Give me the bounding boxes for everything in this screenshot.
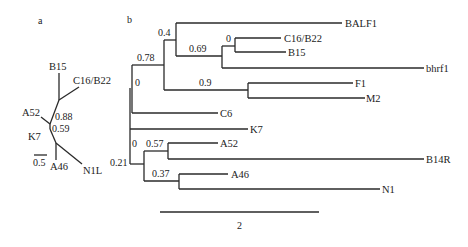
support-0-37: 0.37 xyxy=(152,168,170,179)
tip-label-k7: K7 xyxy=(28,131,41,142)
tip-label-n1: N1 xyxy=(382,184,395,195)
tip-label-a52: A52 xyxy=(22,107,40,118)
support-0-88: 0.88 xyxy=(55,111,73,122)
panel-b-label: b xyxy=(127,14,132,25)
support-0-9: 0.9 xyxy=(199,77,212,88)
tip-label-c16b22: C16/B22 xyxy=(284,33,322,44)
scale-bar-b-label: 2 xyxy=(237,220,242,231)
tip-label-k7: K7 xyxy=(250,124,263,135)
tip-label-c16b22: C16/B22 xyxy=(73,75,111,86)
panel-b: b xyxy=(110,14,451,231)
tip-label-c6: C6 xyxy=(220,108,232,119)
branch-c16b22 xyxy=(59,87,79,100)
tip-label-a52: A52 xyxy=(220,138,238,149)
figure-canvas: a B15 C16/B22 A52 K7 A46 N1L 0.88 0.59 0… xyxy=(0,0,468,247)
support-0-57: 0.57 xyxy=(146,138,164,149)
panel-a-label: a xyxy=(38,15,43,26)
scale-bar-a-label: 0.5 xyxy=(33,157,46,168)
support-0-4: 0.4 xyxy=(158,27,171,38)
support-0-69: 0.69 xyxy=(189,43,207,54)
tip-label-n1l: N1L xyxy=(83,165,102,176)
tip-label-b15: B15 xyxy=(49,61,67,72)
support-0-c16: 0 xyxy=(226,33,231,44)
tip-label-bhrf1: bhrf1 xyxy=(426,63,449,74)
tip-label-balf1: BALF1 xyxy=(345,18,377,29)
tip-label-b14r: B14R xyxy=(426,154,451,165)
support-0-inner: 0 xyxy=(135,77,140,88)
tip-label-a46: A46 xyxy=(50,161,68,172)
tip-label-b15: B15 xyxy=(288,47,306,58)
tip-label-f1: F1 xyxy=(355,78,366,89)
support-0-78: 0.78 xyxy=(137,52,155,63)
tip-label-m2: M2 xyxy=(366,93,381,104)
tip-label-a46: A46 xyxy=(231,169,249,180)
support-0-lower: 0 xyxy=(132,138,137,149)
support-0-59: 0.59 xyxy=(52,123,70,134)
panel-a: a B15 C16/B22 A52 K7 A46 N1L 0.88 0.59 0… xyxy=(22,15,111,176)
support-0-21: 0.21 xyxy=(110,157,128,168)
branch-a52 xyxy=(41,117,50,124)
